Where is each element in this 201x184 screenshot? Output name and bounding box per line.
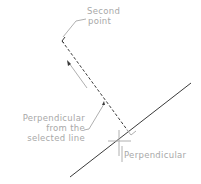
perpendicular-symbol (127, 130, 136, 135)
perp-from-label-line3: selected line (10, 133, 85, 143)
perp-from-label-line2: from the (10, 123, 85, 133)
perp-from-label: Perpendicular from the selected line (10, 113, 85, 143)
perpendicular-label: Perpendicular (124, 150, 186, 160)
second-point-label-line1: Second (87, 6, 120, 16)
direction-arrow (69, 63, 87, 88)
second-point-label: Second point (87, 6, 120, 26)
second-point-leader (63, 19, 86, 37)
leader-arrowhead-icon (102, 101, 105, 105)
second-point-marker (62, 37, 65, 43)
perp-from-leader (84, 104, 104, 130)
selected-line (70, 83, 191, 177)
second-point-label-line2: point (87, 16, 120, 26)
perp-from-label-line1: Perpendicular (10, 113, 85, 123)
